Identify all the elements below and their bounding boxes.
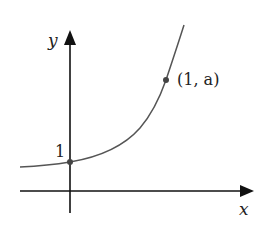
exponential-curve [20, 25, 184, 167]
point-label: (1, a) [177, 70, 219, 89]
point-1-a [163, 77, 169, 83]
y-intercept-point [67, 159, 73, 165]
y-intercept-label: 1 [55, 142, 65, 161]
y-axis-label: y [47, 30, 58, 50]
y-axis-arrow-icon [64, 30, 76, 45]
x-axis-label: x [239, 199, 249, 219]
exponential-graph: y x 1 (1, a) [0, 0, 264, 230]
x-axis-arrow-icon [240, 185, 254, 197]
